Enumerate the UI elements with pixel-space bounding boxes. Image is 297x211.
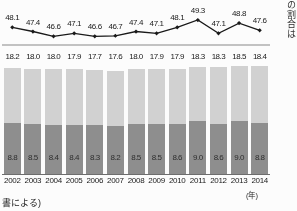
bar-stack: 8.8 (4, 68, 21, 174)
line-value-label: 46.6 (88, 22, 102, 31)
bar-stack: 8.5 (128, 69, 145, 174)
line-value-label: 47.6 (253, 16, 267, 25)
bar-stack: 8.8 (251, 66, 268, 174)
bar-segment-upper (231, 66, 248, 122)
vertical-text-column: の割合は (285, 0, 296, 38)
line-value-label: 47.1 (150, 19, 164, 28)
x-axis-tick-label: 2002 (4, 176, 21, 185)
bar-segment-upper (107, 71, 124, 126)
bar-segment-lower-label: 9.0 (234, 153, 244, 162)
bar-segment-lower: 8.4 (66, 125, 83, 174)
bar-segment-upper (251, 66, 268, 122)
bar-segment-lower-label: 8.6 (172, 153, 182, 162)
line-value-label: 46.6 (47, 22, 61, 31)
chart-figure: 48.147.446.647.146.646.747.447.148.149.3… (0, 0, 297, 211)
line-data-point (113, 34, 117, 38)
line-data-point (258, 28, 262, 32)
bar-total-label: 18.0 (47, 52, 61, 61)
bar-stack: 9.0 (231, 66, 248, 174)
bar-column: 18.28.8 (4, 52, 21, 174)
bar-segment-lower: 9.0 (231, 121, 248, 174)
line-value-label: 47.1 (211, 19, 225, 28)
bar-segment-upper (24, 69, 41, 125)
x-axis-tick-label: 2012 (210, 176, 227, 185)
bar-segment-lower-label: 8.5 (28, 153, 38, 162)
bar-segment-upper (45, 69, 62, 125)
bar-stack: 8.6 (210, 67, 227, 174)
line-data-point (72, 31, 76, 35)
panel-separator-rule (2, 44, 270, 46)
bar-segment-lower-label: 8.4 (49, 153, 59, 162)
bar-segment-upper (86, 70, 103, 125)
bar-segment-lower-label: 8.8 (7, 153, 17, 162)
bar-total-label: 18.2 (6, 52, 20, 61)
bar-chart-baseline (2, 174, 270, 175)
line-value-label: 49.3 (191, 6, 205, 15)
bar-column: 17.98.6 (169, 52, 186, 174)
bar-chart-panel: 18.28.818.08.518.08.417.98.417.78.317.68… (2, 52, 270, 174)
bar-segment-lower: 8.8 (251, 123, 268, 174)
bar-total-label: 17.9 (150, 52, 164, 61)
bar-segment-upper (128, 69, 145, 125)
bar-segment-lower: 8.6 (169, 124, 186, 174)
bar-total-label: 18.5 (232, 52, 246, 61)
bar-segment-upper (148, 69, 165, 124)
bar-total-label: 17.9 (67, 52, 81, 61)
bar-segment-lower-label: 8.3 (90, 153, 100, 162)
bar-segment-lower: 8.3 (86, 125, 103, 174)
bar-segment-lower: 8.6 (210, 124, 227, 174)
bar-total-label: 17.6 (109, 52, 123, 61)
bar-segment-lower: 8.5 (128, 124, 145, 174)
bar-column: 17.98.5 (148, 52, 165, 174)
bar-total-label: 18.0 (26, 52, 40, 61)
bar-column: 17.68.2 (107, 52, 124, 174)
bar-stack: 8.2 (107, 71, 124, 174)
bar-column: 18.48.8 (251, 52, 268, 174)
line-value-label: 48.1 (170, 13, 184, 22)
bar-stack: 8.3 (86, 70, 103, 174)
line-data-point (93, 34, 97, 38)
bar-total-label: 18.0 (129, 52, 143, 61)
bar-segment-upper (210, 67, 227, 124)
bar-segment-lower-label: 8.5 (131, 153, 141, 162)
bar-column: 18.08.4 (45, 52, 62, 174)
bar-segment-upper (169, 69, 186, 123)
bar-segment-lower-label: 8.8 (255, 153, 265, 162)
line-value-label: 47.4 (26, 18, 40, 27)
bar-column: 18.39.0 (189, 52, 206, 174)
line-value-label: 48.8 (232, 9, 246, 18)
bar-segment-lower: 8.5 (24, 124, 41, 174)
x-axis-tick-label: 2005 (66, 176, 83, 185)
x-axis-tick-labels: 2002200320042005200620072008200920102011… (2, 176, 270, 189)
x-axis-tick-label: 2014 (251, 176, 268, 185)
bar-stack: 8.5 (24, 69, 41, 174)
bar-segment-upper (66, 69, 83, 125)
x-axis-tick-label: 2004 (45, 176, 62, 185)
bar-segment-lower: 8.4 (45, 125, 62, 174)
bar-stack: 9.0 (189, 67, 206, 174)
bar-total-label: 18.3 (191, 52, 205, 61)
bar-column: 18.08.5 (128, 52, 145, 174)
bar-segment-lower: 8.5 (148, 124, 165, 174)
bar-total-label: 18.4 (253, 52, 267, 61)
bar-segment-lower-label: 8.4 (69, 153, 79, 162)
x-axis-tick-label: 2006 (86, 176, 103, 185)
line-data-point (31, 29, 35, 33)
bar-segment-lower: 8.8 (4, 123, 21, 174)
x-axis-tick-label: 2009 (148, 176, 165, 185)
bar-total-label: 18.3 (212, 52, 226, 61)
bar-column: 17.98.4 (66, 52, 83, 174)
bar-stack: 8.6 (169, 69, 186, 174)
line-chart-panel: 48.147.446.647.146.646.747.447.148.149.3… (0, 0, 272, 48)
x-axis-unit-label: (年) (246, 189, 258, 200)
bar-segment-lower-label: 8.5 (152, 153, 162, 162)
line-value-label: 46.7 (108, 22, 122, 31)
line-data-point (134, 29, 138, 33)
bar-segment-lower: 8.2 (107, 126, 124, 174)
line-data-point (175, 25, 179, 29)
x-axis-tick-label: 2003 (25, 176, 42, 185)
bar-stack: 8.5 (148, 69, 165, 174)
x-axis-tick-label: 2010 (169, 176, 186, 185)
x-axis-tick-label: 2007 (107, 176, 124, 185)
bar-column: 18.08.5 (24, 52, 41, 174)
